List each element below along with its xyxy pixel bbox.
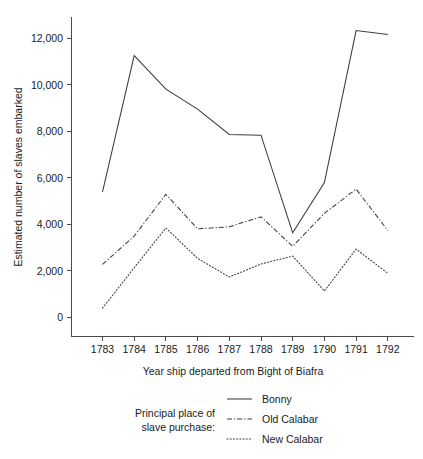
y-tick-label: 12,000 (31, 32, 63, 44)
y-tick-label: 4,000 (37, 218, 63, 230)
legend-caption-line2: slave purchase: (141, 421, 215, 433)
legend-item-old-calabar[interactable]: Old Calabar (227, 413, 319, 425)
y-axis-title: Estimated number of slaves embarked (12, 87, 24, 266)
x-tick-1788: 1788 (249, 337, 273, 356)
y-tick-6000: 6,000 (37, 172, 72, 184)
y-tick-8000: 8,000 (37, 125, 72, 137)
x-tick-1789: 1789 (281, 337, 305, 356)
x-tick-label: 1789 (281, 343, 305, 355)
series-line-bonny (103, 31, 388, 233)
legend-label: Bonny (262, 393, 293, 405)
x-tick-1783: 1783 (91, 337, 115, 356)
x-axis-title: Year ship departed from Bight of Biafra (143, 365, 324, 377)
x-tick-1792: 1792 (376, 337, 400, 356)
legend-label: Old Calabar (262, 413, 319, 425)
x-tick-1785: 1785 (154, 337, 178, 356)
legend-item-new-calabar[interactable]: New Calabar (227, 433, 323, 445)
y-tick-12000: 12,000 (31, 32, 72, 44)
y-tick-10000: 10,000 (31, 79, 72, 91)
x-tick-label: 1792 (376, 343, 400, 355)
y-tick-2000: 2,000 (37, 265, 72, 277)
x-tick-1790: 1790 (313, 337, 337, 356)
series-line-new-calabar (103, 228, 388, 308)
y-axis-ticks: 0 2,000 4,000 6,000 8,000 10,000 (31, 32, 72, 323)
x-tick-label: 1783 (91, 343, 115, 355)
x-tick-1784: 1784 (123, 337, 147, 356)
legend-item-bonny[interactable]: Bonny (227, 393, 293, 405)
y-tick-label: 10,000 (31, 79, 63, 91)
x-tick-label: 1790 (313, 343, 337, 355)
x-tick-label: 1786 (186, 343, 210, 355)
legend-label: New Calabar (262, 433, 323, 445)
x-tick-label: 1791 (344, 343, 368, 355)
x-tick-label: 1788 (249, 343, 273, 355)
y-tick-label: 0 (57, 311, 63, 323)
x-tick-1791: 1791 (344, 337, 368, 356)
y-tick-0: 0 (57, 311, 71, 323)
y-tick-label: 8,000 (37, 125, 63, 137)
x-tick-label: 1785 (154, 343, 178, 355)
line-chart: 0 2,000 4,000 6,000 8,000 10,000 (0, 0, 423, 459)
y-tick-label: 6,000 (37, 172, 63, 184)
series-line-old-calabar (103, 189, 388, 264)
legend-caption-line1: Principal place of (135, 407, 215, 419)
y-tick-label: 2,000 (37, 265, 63, 277)
x-tick-label: 1787 (218, 343, 242, 355)
x-tick-1786: 1786 (186, 337, 210, 356)
x-tick-1787: 1787 (218, 337, 242, 356)
legend: Principal place of slave purchase: Bonny… (135, 393, 323, 445)
chart-figure: 0 2,000 4,000 6,000 8,000 10,000 (0, 0, 423, 459)
y-tick-4000: 4,000 (37, 218, 72, 230)
x-tick-label: 1784 (123, 343, 147, 355)
x-axis-ticks: 1783 1784 1785 1786 1787 1788 (91, 337, 400, 356)
